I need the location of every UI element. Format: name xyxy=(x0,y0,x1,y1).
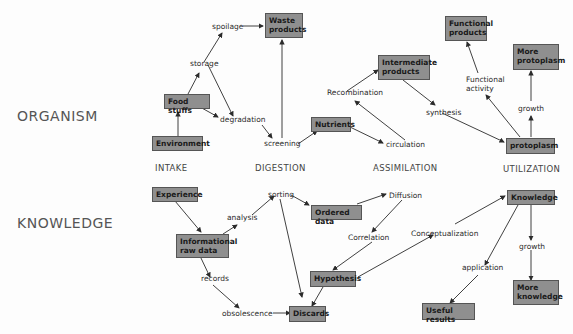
column-title-utilization: UTILIZATION xyxy=(503,164,560,174)
row-title-organism: ORGANISM xyxy=(17,108,98,124)
label-recombination: Recombination xyxy=(327,88,383,97)
label-degradation: degradation xyxy=(220,115,266,124)
label-spoilage: spoilage xyxy=(212,22,243,31)
label-storage: storage xyxy=(190,59,219,68)
box-useful-results: Useful results xyxy=(422,303,475,320)
box-ordered-data: Ordered data xyxy=(311,205,362,220)
box-food-stuffs: Food stuffs xyxy=(164,94,210,109)
label-application: application xyxy=(462,263,503,272)
column-title-digestion: DIGESTION xyxy=(255,163,306,173)
label-obsolescence: obsolescence xyxy=(222,309,273,318)
label-functional-activity-line2: activity xyxy=(466,84,494,93)
box-knowledge: Knowledge xyxy=(507,190,555,205)
label-analysis: analysis xyxy=(227,213,257,222)
label-screening: screening xyxy=(264,139,301,148)
label-diffusion: Diffusion xyxy=(389,191,422,200)
box-informational-raw-data: Informational raw data xyxy=(176,234,229,258)
row-title-knowledge: KNOWLEDGE xyxy=(17,215,113,231)
label-synthesis: synthesis xyxy=(426,108,461,117)
label-growth-organism: growth xyxy=(518,104,544,113)
column-title-intake: INTAKE xyxy=(155,163,188,173)
label-conceptualization: Conceptualization xyxy=(411,229,478,238)
box-intermediate-products: Intermediate products xyxy=(378,55,430,80)
label-functional-activity-line1: Functional xyxy=(466,75,505,84)
box-hypothesis: Hypothesis xyxy=(310,271,356,287)
box-environment: Environment xyxy=(152,136,203,151)
box-waste-products: Waste products xyxy=(265,13,303,38)
box-protoplasm: protoplasm xyxy=(506,138,555,154)
label-circulation: circulation xyxy=(386,140,425,149)
label-correlation: Correlation xyxy=(348,233,389,242)
box-functional-products: Functional products xyxy=(445,16,487,41)
label-growth-knowledge: growth xyxy=(519,242,545,251)
label-sorting: sorting xyxy=(268,190,294,199)
box-experience: Experience xyxy=(152,187,198,202)
box-more-protoplasm: More protoplasm xyxy=(513,44,559,70)
column-title-assimilation: ASSIMILATION xyxy=(373,163,438,173)
label-records: records xyxy=(201,274,229,283)
box-nutrients: Nutrients xyxy=(311,117,351,132)
box-discards: Discards xyxy=(289,306,326,322)
box-more-knowledge: More knowledge xyxy=(513,280,559,305)
diagram-canvas: ORGANISM KNOWLEDGE INTAKE DIGESTION ASSI… xyxy=(0,0,573,334)
